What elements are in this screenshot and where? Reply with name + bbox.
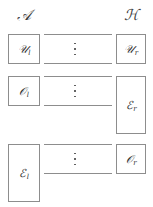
subspace-pairing-diagram: 𝒜 ℋ 𝒰l 𝒰r 𝒪l ℰr ℰl 𝒪r	[0, 0, 153, 207]
node-box-o-right: 𝒪r	[116, 144, 146, 174]
node-label-o-left: 𝒪l	[19, 86, 29, 97]
node-base-o-left: 𝒪	[19, 85, 26, 98]
node-label-o-right: 𝒪r	[126, 154, 137, 165]
node-label-u-right: 𝒰r	[124, 44, 138, 55]
connector-row2-bottom	[44, 105, 112, 106]
ellipsis-dot	[74, 85, 75, 86]
node-subscript-o-left: l	[27, 91, 29, 99]
connector-row1-top	[44, 34, 112, 35]
node-base-u-right: 𝒰	[124, 43, 134, 56]
ellipsis-dot	[74, 96, 75, 97]
node-subscript-u-left: l	[28, 49, 30, 57]
node-subscript-e-right: r	[133, 105, 137, 113]
node-base-o-right: 𝒪	[126, 153, 133, 166]
node-subscript-o-right: r	[133, 159, 137, 167]
ellipsis-row2	[73, 85, 77, 97]
node-subscript-u-right: r	[135, 49, 139, 57]
node-label-e-right: ℰr	[126, 100, 137, 111]
ellipsis-dot	[74, 153, 75, 154]
ellipsis-dot	[74, 54, 75, 55]
connector-row3-bottom	[44, 173, 112, 174]
node-base-e-left: ℰ	[19, 167, 26, 180]
ellipsis-dot	[74, 43, 75, 44]
column-header-right: ℋ	[116, 8, 146, 23]
ellipsis-row1	[73, 43, 77, 55]
connector-row2-top	[44, 76, 112, 77]
column-header-left: 𝒜	[8, 8, 40, 23]
ellipsis-row3	[73, 153, 77, 165]
connector-row3-top	[44, 144, 112, 145]
ellipsis-dot	[74, 90, 75, 91]
node-subscript-e-left: l	[27, 173, 29, 181]
node-box-e-left: ℰl	[8, 144, 40, 202]
node-box-u-left: 𝒰l	[8, 34, 40, 64]
connector-row1-bottom	[44, 63, 112, 64]
node-base-u-left: 𝒰	[18, 43, 28, 56]
node-box-u-right: 𝒰r	[116, 34, 146, 64]
node-base-e-right: ℰ	[126, 99, 133, 112]
ellipsis-dot	[74, 48, 75, 49]
node-box-e-right: ℰr	[116, 76, 146, 134]
node-box-o-left: 𝒪l	[8, 76, 40, 106]
ellipsis-dot	[74, 158, 75, 159]
node-label-u-left: 𝒰l	[18, 44, 31, 55]
node-label-e-left: ℰl	[19, 168, 29, 179]
ellipsis-dot	[74, 164, 75, 165]
